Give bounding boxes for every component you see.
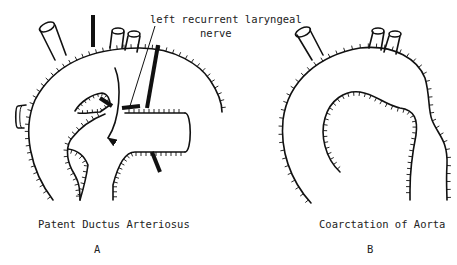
hatch-tick	[220, 100, 224, 101]
hatch-tick	[333, 162, 336, 164]
hatch-tick	[285, 166, 289, 167]
hatch-tick	[333, 103, 336, 106]
hatch-tick	[57, 68, 59, 71]
hatch-tick	[37, 89, 40, 91]
hatch-tick	[342, 95, 344, 99]
hatch-tick	[89, 51, 90, 55]
hatch-tick	[77, 108, 79, 110]
aortic-arch-outer-wall	[29, 48, 222, 200]
hatch-tick	[104, 95, 106, 97]
hatch-tick	[305, 200, 308, 203]
hatch-tick	[69, 60, 71, 64]
hatch-tick	[409, 150, 413, 151]
annotation-line-1: left recurrent laryngeal	[150, 13, 302, 25]
hatch-tick	[197, 63, 199, 66]
panel-b-coarctation-of-aorta	[279, 25, 451, 203]
hatch-tick	[71, 150, 72, 154]
hatch-tick	[296, 187, 299, 189]
hatch-tick	[301, 73, 304, 76]
brachiocephalic-vessel	[38, 20, 66, 60]
hatch-tick	[68, 137, 71, 139]
hatch-tick	[81, 123, 83, 126]
hatch-tick	[41, 83, 44, 85]
ductus-clip	[122, 106, 140, 108]
left-carotid-vessel	[110, 28, 124, 48]
hatch-tick	[391, 106, 392, 110]
hatch-tick	[62, 64, 64, 67]
hatch-tick	[115, 177, 119, 178]
hatch-tick	[380, 101, 382, 105]
hatch-tick	[119, 168, 123, 170]
panel-letter-a: A	[94, 243, 101, 255]
aortic-arch-inner-wall	[68, 114, 106, 200]
hatch-tick	[70, 173, 73, 175]
hatch-tick	[33, 96, 36, 98]
hatch-tick	[288, 173, 292, 175]
hatch-tick	[211, 80, 214, 82]
hatch-tick	[76, 127, 79, 130]
hatch-tick	[117, 172, 121, 173]
hatch-tick	[121, 163, 125, 165]
hatch-tick	[185, 55, 187, 59]
hatch-tick	[307, 67, 310, 70]
aortic-arch-inner-wall-b	[323, 92, 416, 200]
wall-hatching-b	[279, 43, 451, 202]
hatch-tick	[423, 72, 427, 74]
hatch-tick	[413, 59, 416, 62]
hatch-tick	[84, 101, 86, 103]
hatch-tick	[375, 98, 377, 102]
hatch-tick	[207, 74, 210, 77]
hatch-tick	[75, 152, 77, 155]
wall-hatching-a	[25, 44, 226, 199]
hatch-tick	[300, 194, 303, 196]
hatch-tick	[81, 104, 83, 106]
hatch-tick	[419, 65, 422, 67]
hatch-tick	[46, 78, 49, 81]
hatch-tick	[218, 93, 222, 95]
hatch-tick	[202, 68, 205, 71]
ductus-tube-end	[185, 113, 190, 152]
caption-a: Patent Ductus Arteriosus	[38, 218, 190, 230]
hatch-tick	[408, 156, 412, 157]
hatch-tick	[40, 185, 44, 187]
hatch-tick	[327, 113, 331, 115]
hatch-tick	[127, 155, 130, 158]
hatch-tick	[67, 168, 71, 170]
hatch-tick	[72, 132, 75, 135]
aortic-arch-outer-wall-b	[282, 47, 447, 203]
hatch-tick	[296, 79, 299, 81]
hatch-tick	[407, 53, 409, 56]
hatch-tick	[359, 92, 360, 96]
hatch-tick	[82, 161, 85, 163]
hatch-tick	[329, 108, 332, 110]
hatch-tick	[337, 166, 340, 169]
hatch-tick	[97, 113, 99, 117]
hatch-tick	[43, 191, 46, 193]
hatch-tick	[407, 111, 409, 114]
annotation-line-2: nerve	[200, 27, 232, 39]
hatch-tick	[444, 140, 448, 141]
hatch-tick	[110, 46, 111, 50]
hatch-tick	[392, 47, 393, 51]
hatch-tick	[173, 50, 174, 54]
hatch-tick	[86, 119, 88, 122]
hatch-tick	[330, 157, 334, 159]
hatch-tick	[84, 166, 88, 167]
hatch-tick	[440, 133, 443, 135]
hatch-tick	[92, 116, 94, 119]
hatch-tick	[410, 116, 413, 118]
brachiocephalic-vessel-b	[294, 25, 323, 60]
hatch-tick	[291, 86, 294, 88]
hatch-tick	[432, 119, 436, 121]
hatch-tick	[337, 99, 339, 102]
panel-letter-b: B	[367, 243, 373, 255]
recurrent-laryngeal-nerve	[147, 45, 158, 108]
hatch-tick	[123, 159, 126, 161]
hatch-tick	[291, 180, 295, 182]
hatch-tick	[328, 152, 332, 154]
hatch-tick	[93, 96, 94, 99]
hatch-tick	[348, 93, 349, 97]
hatch-tick	[427, 89, 431, 90]
hatch-tick	[436, 126, 439, 128]
hatch-tick	[400, 49, 402, 53]
